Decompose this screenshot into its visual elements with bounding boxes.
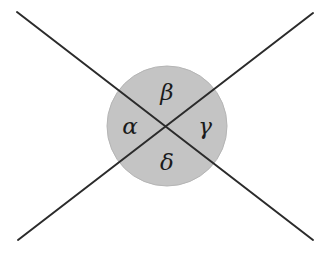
angle-label-gamma: γ <box>198 115 212 138</box>
angle-label-delta: δ <box>160 151 174 174</box>
diagram-canvas <box>0 0 331 254</box>
angle-diagram: α β γ δ <box>0 0 331 254</box>
angle-label-alpha: α <box>122 115 138 138</box>
angle-label-beta: β <box>160 81 173 104</box>
